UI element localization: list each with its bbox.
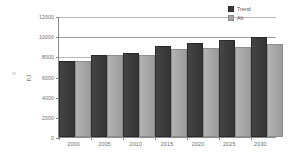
legend-label-alt: Alt (237, 15, 243, 21)
legend: Trend Alt (228, 6, 251, 21)
x-axis-tick (123, 137, 124, 140)
bar-alt-2015[interactable] (171, 49, 187, 137)
x-axis-tick-label: 2020 (183, 141, 214, 147)
x-axis-labels: 2000200520102015202020252030 (58, 141, 276, 147)
bars-layer (59, 17, 276, 137)
bar-alt-2000[interactable] (75, 61, 91, 137)
bar-alt-2010[interactable] (139, 55, 155, 137)
x-axis-tick (59, 137, 60, 140)
x-axis-tick-label: 2030 (245, 141, 276, 147)
bar-group (123, 17, 155, 137)
bar-chart: PJ 120001000080006000400020000 200020052… (0, 0, 292, 162)
scan-artifact (12, 72, 16, 75)
bar-alt-2025[interactable] (235, 47, 251, 137)
bar-trend-2005[interactable] (91, 55, 107, 137)
x-axis-tick-label: 2015 (151, 141, 182, 147)
x-axis-tick-label: 2010 (120, 141, 151, 147)
bar-group (251, 17, 283, 137)
x-axis-tick (219, 137, 220, 140)
x-axis-tick-label: 2025 (214, 141, 245, 147)
x-axis-tick (251, 137, 252, 140)
bar-trend-2030[interactable] (251, 37, 267, 137)
y-axis-tick-label: 12000 (39, 14, 54, 20)
bar-trend-2010[interactable] (123, 53, 139, 137)
x-axis-tick (91, 137, 92, 140)
y-axis-tick-label: 8000 (42, 54, 54, 60)
y-axis-title: PJ (26, 75, 32, 82)
y-axis-tick-label: 10000 (39, 34, 54, 40)
bar-group (155, 17, 187, 137)
legend-item-trend[interactable]: Trend (228, 6, 251, 12)
bar-alt-2020[interactable] (203, 48, 219, 137)
y-axis-tick-label: 4000 (42, 95, 54, 101)
bar-group (219, 17, 251, 137)
x-axis-tick (187, 137, 188, 140)
x-axis-tick-label: 2000 (58, 141, 89, 147)
bar-group (187, 17, 219, 137)
y-axis-tick-label: 6000 (42, 75, 54, 81)
bar-group (59, 17, 91, 137)
legend-swatch-icon-alt (228, 15, 234, 21)
legend-item-alt[interactable]: Alt (228, 15, 251, 21)
bar-trend-2025[interactable] (219, 40, 235, 137)
bar-alt-2030[interactable] (267, 44, 283, 137)
plot-area: 120001000080006000400020000 (58, 17, 276, 138)
y-axis-tick-label: 0 (51, 135, 54, 141)
bar-alt-2005[interactable] (107, 55, 123, 137)
y-axis-tick-label: 2000 (42, 115, 54, 121)
x-axis-tick-label: 2005 (89, 141, 120, 147)
bar-trend-2020[interactable] (187, 43, 203, 137)
legend-label-trend: Trend (237, 6, 251, 12)
legend-swatch-icon-trend (228, 6, 234, 12)
bar-trend-2015[interactable] (155, 46, 171, 137)
bar-trend-2000[interactable] (59, 61, 75, 137)
x-axis-tick (155, 137, 156, 140)
bar-group (91, 17, 123, 137)
